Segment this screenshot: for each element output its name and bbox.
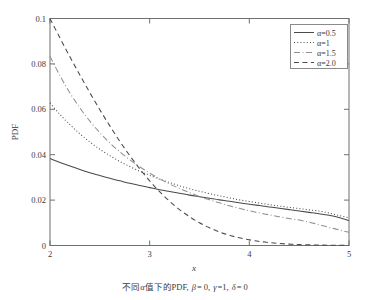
y-tick-label-4: 0.08 xyxy=(31,59,46,69)
x-tick-label-0: 2 xyxy=(48,249,52,259)
x-tick-label-3: 5 xyxy=(347,249,351,259)
y-axis-title: PDF xyxy=(10,124,20,141)
y-tick-label-5: 0.1 xyxy=(35,14,46,24)
legend-label-alpha-0-5: α=0.5 xyxy=(317,29,336,38)
figure-caption: 不同α值下的PDF,β= 0,γ=1,δ= 0 xyxy=(122,282,248,292)
caption-cn-2: 值下的PDF, xyxy=(145,282,189,292)
legend-label-alpha-2-0: α=2.0 xyxy=(317,59,336,68)
x-axis-title: x xyxy=(191,263,196,273)
caption-gamma-val: =1, xyxy=(218,282,229,292)
curve-alpha-1 xyxy=(50,103,349,218)
caption-cn-1: 不同 xyxy=(122,282,140,292)
pdf-line-chart: 0 0.02 0.04 0.06 0.08 0.1 2 3 4 5 PDF x … xyxy=(0,0,371,300)
y-tick-label-2: 0.04 xyxy=(31,150,47,160)
curve-alpha-1-5 xyxy=(50,56,349,232)
x-tick-label-1: 3 xyxy=(148,249,152,259)
y-tick-label-3: 0.06 xyxy=(31,104,46,114)
caption-delta-val: = 0 xyxy=(237,282,248,292)
curve-alpha-0-5 xyxy=(50,159,349,221)
y-tick-label-0: 0 xyxy=(42,241,46,251)
legend-label-alpha-1: α=1 xyxy=(317,39,330,48)
caption-beta: β xyxy=(191,282,197,292)
caption-beta-val: = 0, xyxy=(197,282,210,292)
legend-label-alpha-1-5: α=1.5 xyxy=(317,49,336,58)
x-tick-label-2: 4 xyxy=(247,249,252,259)
y-tick-label-1: 0.02 xyxy=(31,195,46,205)
legend[interactable]: α=0.5 α=1 α=1.5 α=2.0 xyxy=(291,25,348,69)
